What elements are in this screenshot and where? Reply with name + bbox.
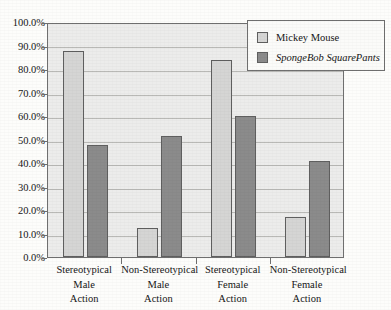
legend-label-spongebob-squarepants: SpongeBob SquarePants — [276, 52, 380, 63]
x-axis-label-line: Non-Stereotypical — [121, 263, 195, 278]
x-axis-label: Non-StereotypicalFemaleAction — [270, 263, 344, 307]
legend-swatch-icon-spongebob-squarepants — [257, 52, 268, 63]
x-axis-label-line: Action — [121, 292, 195, 307]
y-axis-tick-label: 50.0% — [0, 136, 45, 146]
x-axis-label-line: Action — [196, 292, 270, 307]
bar — [161, 136, 182, 257]
x-axis-labels: StereotypicalMaleActionNon-Stereotypical… — [47, 263, 344, 309]
x-axis-label-line: Female — [270, 278, 344, 293]
y-axis-tick-label: 80.0% — [0, 65, 45, 75]
y-axis-tick-label: 40.0% — [0, 159, 45, 169]
bar — [285, 217, 306, 257]
bar — [211, 60, 232, 257]
bar — [309, 161, 330, 257]
y-axis-tick-label: 0.0% — [0, 253, 45, 263]
x-axis-label-line: Action — [47, 292, 121, 307]
x-axis-label-line: Male — [121, 278, 195, 293]
y-axis-tick-label: 100.0% — [0, 18, 45, 28]
x-axis-label: Non-StereotypicalMaleAction — [121, 263, 195, 307]
legend-label-mickey-mouse: Mickey Mouse — [276, 32, 339, 43]
bar-chart: 100.0%90.0%80.0%70.0%60.0%50.0%40.0%30.0… — [0, 0, 391, 310]
y-axis-tick-label: 30.0% — [0, 183, 45, 193]
x-axis-label-line: Action — [270, 292, 344, 307]
x-axis-label-line: Female — [196, 278, 270, 293]
legend-swatch-icon-mickey-mouse — [257, 32, 268, 43]
gridline — [48, 95, 343, 96]
y-axis-tick-label: 10.0% — [0, 230, 45, 240]
bar — [235, 116, 256, 257]
x-axis-label: StereotypicalFemaleAction — [196, 263, 270, 307]
gridline — [48, 142, 343, 143]
y-axis-tick-label: 60.0% — [0, 112, 45, 122]
x-axis-label-line: Stereotypical — [196, 263, 270, 278]
legend-item-mickey-mouse: Mickey Mouse — [257, 28, 384, 46]
bar — [137, 228, 158, 257]
y-axis-tick-label: 90.0% — [0, 42, 45, 52]
gridline — [48, 118, 343, 119]
bar — [63, 51, 84, 257]
x-axis-label: StereotypicalMaleAction — [47, 263, 121, 307]
x-axis-label-line: Male — [47, 278, 121, 293]
y-axis-tick-label: 70.0% — [0, 89, 45, 99]
x-axis-label-line: Non-Stereotypical — [270, 263, 344, 278]
x-axis-label-line: Stereotypical — [47, 263, 121, 278]
gridline — [48, 71, 343, 72]
bar — [87, 145, 108, 257]
y-axis-tick-label: 20.0% — [0, 206, 45, 216]
y-axis-tick-mark — [42, 258, 47, 259]
legend: Mickey Mouse SpongeBob SquarePants — [247, 20, 385, 71]
legend-item-spongebob-squarepants: SpongeBob SquarePants — [257, 48, 384, 66]
